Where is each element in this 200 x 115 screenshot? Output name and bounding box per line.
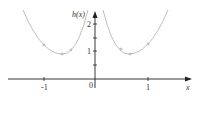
x-axis-label: x <box>185 83 190 92</box>
curve-right-branch <box>103 10 168 54</box>
x-axis-arrow-icon <box>185 77 192 82</box>
origin-label: 0 <box>89 81 93 90</box>
function-graph: -1 1 0 1 2 h(x) x <box>0 0 200 115</box>
y-axis-arrow-icon <box>93 11 98 18</box>
y-tick-label-1: 1 <box>87 47 91 56</box>
x-tick-label-pos1: 1 <box>146 83 150 92</box>
y-tick-label-2: 2 <box>87 20 91 29</box>
x-tick-label-neg1: -1 <box>41 83 48 92</box>
y-axis-label: h(x) <box>72 10 85 19</box>
